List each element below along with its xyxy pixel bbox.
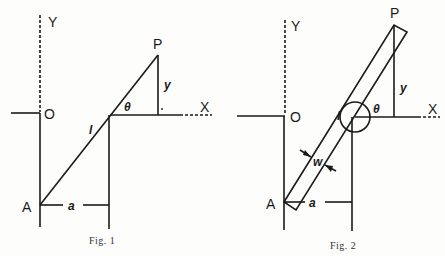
- label-x-axis: X: [200, 99, 210, 115]
- w-arrowhead-left: [303, 150, 311, 157]
- label-origin: O: [290, 109, 301, 125]
- label-x-axis: X: [428, 101, 438, 117]
- label-p: P: [390, 5, 399, 21]
- label-p: P: [153, 36, 162, 52]
- label-theta: θ: [373, 102, 380, 116]
- label-theta: θ: [124, 100, 131, 114]
- label-y-height: y: [163, 78, 172, 92]
- label-a-distance: a: [309, 196, 316, 210]
- label-y-axis: Y: [291, 18, 301, 34]
- w-arrowhead-right: [325, 165, 333, 172]
- label-a-distance: a: [68, 199, 75, 213]
- diagram-canvas: Y O X P A y θ l a Fig. 1 Y O X P A y θ: [0, 0, 445, 256]
- label-y-axis: Y: [48, 14, 58, 30]
- label-l: l: [89, 123, 93, 137]
- figure-caption: Fig. 1: [89, 235, 115, 246]
- label-a-point: A: [22, 199, 32, 215]
- figure-2: Y O X P A y θ l w a Fig. 2: [237, 5, 440, 251]
- label-w: w: [313, 155, 323, 169]
- figure-1: Y O X P A y θ l a Fig. 1: [11, 14, 212, 246]
- figure-caption: Fig. 2: [330, 240, 356, 251]
- label-origin: O: [44, 106, 55, 122]
- rod-line: [40, 55, 158, 205]
- label-a-point: A: [266, 196, 276, 212]
- right-angle-dot: [161, 108, 163, 110]
- label-y-height: y: [399, 81, 408, 95]
